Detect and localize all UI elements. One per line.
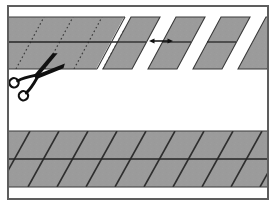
figure-root: Cutting a striped band diagonally into p… (0, 0, 275, 206)
diagram-canvas: Cutting a striped band diagonally into p… (0, 0, 275, 206)
uncut-continuous-band (0, 131, 275, 187)
